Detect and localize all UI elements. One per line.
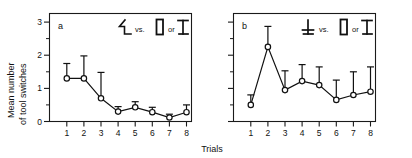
- panel-a-legend-vs: vs.: [135, 25, 145, 34]
- x-ticklabel: 5: [317, 128, 322, 138]
- x-axis-title: Trials: [201, 144, 223, 154]
- data-point: [133, 105, 138, 110]
- x-ticklabel: 2: [266, 128, 271, 138]
- data-point: [64, 76, 69, 81]
- figure-container: Mean number of tool switches 0 1 2: [0, 0, 412, 158]
- y-ticklabel-2: 2: [37, 50, 42, 60]
- x-ticklabel: 3: [99, 128, 104, 138]
- y-axis-label-line1: Mean number: [6, 62, 16, 118]
- panel-a-y-ticks: [44, 22, 50, 121]
- panel-a-legend: vs. or: [120, 20, 189, 35]
- panel-b-x-ticklabels: 1 2 3 4 5 6 7 8: [248, 128, 373, 138]
- figure-svg: Mean number of tool switches 0 1 2: [0, 0, 412, 158]
- x-ticklabel: 8: [368, 128, 373, 138]
- x-ticklabel: 7: [351, 128, 356, 138]
- panel-a-x-ticks: [67, 122, 187, 127]
- data-point: [351, 92, 356, 97]
- straight-rectangle-tool-glyph: [157, 20, 164, 35]
- x-ticklabel: 3: [283, 128, 288, 138]
- panel-a-y-ticklabels: 0 1 2 3: [37, 17, 42, 126]
- x-ticklabel: 8: [184, 128, 189, 138]
- x-ticklabel: 2: [82, 128, 87, 138]
- y-axis-label: Mean number of tool switches: [6, 62, 28, 125]
- t-bar-tool-glyph: [178, 21, 188, 35]
- panel-b-markers: [248, 44, 373, 107]
- data-point: [150, 110, 155, 115]
- x-ticklabel: 7: [167, 128, 172, 138]
- data-point: [115, 109, 120, 114]
- data-point: [184, 110, 189, 115]
- panel-b: b vs. or: [228, 14, 376, 139]
- t-bar-tool-glyph: [362, 21, 372, 35]
- x-ticklabel: 6: [150, 128, 155, 138]
- panel-a-markers: [64, 76, 189, 121]
- y-axis-label-line2: of tool switches: [18, 63, 28, 125]
- data-point: [248, 102, 253, 107]
- hook-tool-glyph: [120, 20, 132, 34]
- x-ticklabel: 6: [334, 128, 339, 138]
- x-ticklabel: 1: [248, 128, 253, 138]
- data-point: [282, 87, 287, 92]
- data-point: [334, 97, 339, 102]
- data-point: [98, 96, 103, 101]
- cross-bar-tool-glyph: [303, 20, 314, 34]
- panel-b-y-ticks: [228, 22, 234, 121]
- panel-a-x-ticklabels: 1 2 3 4 5 6 7 8: [64, 128, 189, 138]
- data-point: [299, 78, 304, 83]
- panel-a: 0 1 2 3 a vs. or: [37, 14, 191, 139]
- data-point: [317, 82, 322, 87]
- panel-b-x-ticks: [251, 122, 371, 127]
- panel-b-letter: b: [242, 21, 247, 31]
- panel-b-legend-or: or: [352, 25, 359, 34]
- panel-b-legend-vs: vs.: [319, 25, 329, 34]
- data-point: [368, 89, 373, 94]
- data-point: [81, 76, 86, 81]
- x-ticklabel: 5: [133, 128, 138, 138]
- x-ticklabel: 4: [300, 128, 305, 138]
- y-ticklabel-0: 0: [37, 117, 42, 127]
- panel-a-legend-or: or: [168, 25, 175, 34]
- data-point: [167, 115, 172, 120]
- panel-a-errorbars: [63, 56, 190, 118]
- data-point: [265, 44, 270, 49]
- panel-a-letter: a: [58, 21, 63, 31]
- panel-b-legend: vs. or: [303, 20, 373, 35]
- y-ticklabel-3: 3: [37, 17, 42, 27]
- x-ticklabel: 1: [64, 128, 69, 138]
- x-ticklabel: 4: [116, 128, 121, 138]
- panel-a-dataline: [67, 78, 187, 117]
- y-ticklabel-1: 1: [37, 83, 42, 93]
- straight-rectangle-tool-glyph: [341, 20, 348, 35]
